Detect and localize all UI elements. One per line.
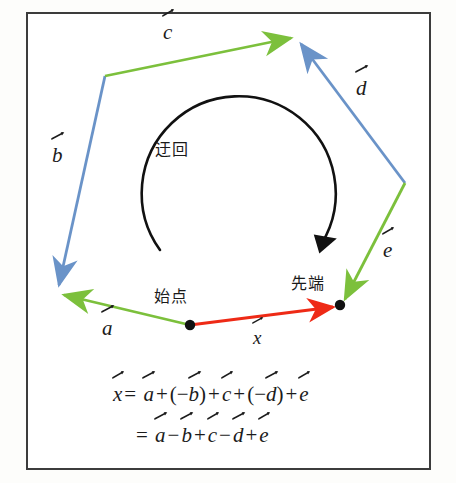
eq1-op-1: + bbox=[154, 382, 170, 406]
eq1-op-4: + bbox=[283, 382, 299, 406]
eq1-term-d: d bbox=[266, 382, 277, 407]
arrow-accent-icon bbox=[232, 411, 246, 422]
arrow-accent-icon bbox=[207, 411, 219, 422]
eq1-op-2: + bbox=[206, 382, 222, 406]
arrow-accent-icon bbox=[154, 411, 168, 422]
eq1-lhs: x bbox=[113, 382, 122, 407]
eq2-op-4: + bbox=[243, 423, 259, 447]
eq2-term-b: b bbox=[181, 423, 192, 448]
start-point-label: 始点 bbox=[154, 283, 188, 307]
vector-b-segment bbox=[59, 76, 105, 285]
arrow-accent-icon bbox=[252, 316, 263, 326]
vector-e-segment bbox=[345, 183, 405, 299]
eq2-op-1: − bbox=[166, 423, 182, 447]
vector-label-e: e bbox=[383, 238, 392, 263]
eq2-term-e: e bbox=[259, 423, 268, 448]
arrow-accent-icon bbox=[112, 370, 124, 381]
eq2-equals: = bbox=[134, 423, 150, 447]
vector-label-b-text: b bbox=[52, 143, 63, 167]
detour-arc bbox=[142, 96, 336, 250]
vector-c-segment bbox=[105, 38, 291, 76]
arrow-accent-icon bbox=[221, 370, 233, 381]
arrow-accent-icon bbox=[162, 8, 174, 19]
eq1-term-e: e bbox=[299, 382, 308, 407]
tip-point-dot bbox=[335, 300, 345, 310]
vector-label-a-text: a bbox=[102, 316, 113, 340]
eq2-term-c: c bbox=[208, 423, 217, 448]
arrow-accent-icon bbox=[142, 370, 156, 381]
tip-point-label: 先端 bbox=[291, 270, 325, 294]
detour-label: 迂回 bbox=[155, 136, 189, 160]
arrow-accent-icon bbox=[265, 370, 279, 381]
equation-line-2: = a−b+c−d+e bbox=[134, 423, 269, 448]
eq1-op-3: + bbox=[231, 382, 247, 406]
vector-d-segment bbox=[301, 44, 405, 183]
vector-label-e-text: e bbox=[383, 238, 392, 262]
arrow-accent-icon bbox=[51, 131, 65, 142]
vector-label-a: a bbox=[102, 316, 113, 341]
eq1-minus-2: − bbox=[254, 382, 266, 406]
arrow-accent-icon bbox=[258, 411, 270, 422]
eq1-term-c: c bbox=[222, 382, 231, 407]
arrow-accent-icon bbox=[298, 370, 310, 381]
eq1-term-a: a bbox=[143, 382, 154, 407]
arrow-accent-icon bbox=[188, 370, 202, 381]
arrow-accent-icon bbox=[101, 304, 115, 315]
arrow-accent-icon bbox=[355, 64, 369, 75]
vector-label-d: d bbox=[356, 76, 367, 101]
start-point-dot bbox=[185, 320, 195, 330]
arrow-accent-icon bbox=[180, 411, 194, 422]
vector-label-x: x bbox=[253, 327, 261, 349]
eq1-equals: = bbox=[122, 382, 138, 406]
vector-label-c: c bbox=[163, 20, 172, 45]
vector-label-d-text: d bbox=[356, 76, 367, 100]
vector-label-c-text: c bbox=[163, 20, 172, 44]
equation-line-1: x= a+(−b)+c+(−d)+e bbox=[113, 382, 309, 407]
vector-label-b: b bbox=[52, 143, 63, 168]
vector-label-x-text: x bbox=[253, 327, 261, 348]
eq1-paren-open: ( bbox=[170, 382, 177, 406]
eq2-term-d: d bbox=[233, 423, 244, 448]
eq2-op-2: + bbox=[192, 423, 208, 447]
eq2-op-3: − bbox=[217, 423, 233, 447]
figure-canvas: a b c d e x 迂回 始点 先端 x= a+(−b)+c+(−d)+e … bbox=[0, 0, 456, 483]
eq1-minus-1: − bbox=[177, 382, 189, 406]
eq2-term-a: a bbox=[155, 423, 166, 448]
arrow-accent-icon bbox=[382, 226, 394, 237]
eq1-term-b: b bbox=[189, 382, 200, 407]
